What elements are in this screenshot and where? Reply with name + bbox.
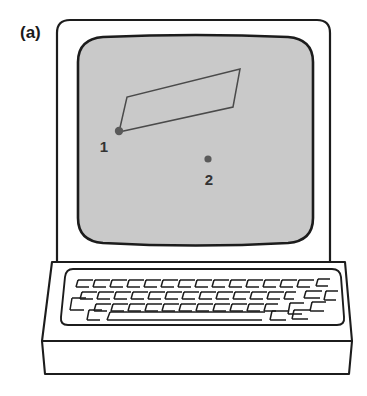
- keyboard-deck-surface: [42, 262, 352, 341]
- marker-label-2: 2: [205, 171, 213, 188]
- computer-line-drawing: (a): [0, 0, 367, 396]
- keyboard-deck: [42, 262, 352, 341]
- marker-dot-1: [115, 127, 123, 135]
- crt-screen: [78, 35, 313, 246]
- monitor: 1 2: [57, 20, 330, 262]
- panel-label: (a): [20, 23, 41, 42]
- computer-base: [42, 341, 352, 374]
- base-front-panel: [42, 341, 352, 374]
- figure-panel-a: (a): [0, 0, 367, 396]
- marker-dot-2: [204, 155, 211, 162]
- marker-label-1: 1: [100, 138, 108, 155]
